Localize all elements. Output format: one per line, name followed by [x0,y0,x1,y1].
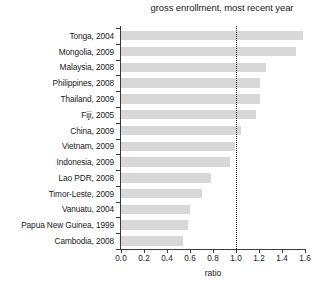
bar-row [121,170,305,186]
bar-row [121,75,305,91]
reference-line-1-0 [236,26,237,253]
bar-row [121,138,305,154]
y-axis-tick [116,170,120,171]
y-axis-tick [116,154,120,155]
category-label: China, 2009 [70,126,114,136]
category-label: Thailand, 2009 [61,94,115,104]
x-axis-tick-label: 1.2 [253,254,264,263]
bar [121,126,241,135]
bar [121,63,266,72]
category-label: Malaysia, 2008 [60,62,114,72]
bar-row [121,60,305,76]
x-axis-tick-label: 1.6 [299,254,310,263]
category-label: Fiji, 2005 [81,110,114,120]
y-axis-tick [116,28,120,29]
bar-row [121,28,305,44]
bar-rows [121,28,305,249]
y-axis-tick [116,186,120,187]
y-axis-tick [116,91,120,92]
category-label-row: Fiji, 2005 [0,107,114,123]
bar-row [121,202,305,218]
x-axis-tick-label: 0.0 [115,254,126,263]
x-axis-tick [305,249,306,253]
x-axis-tick-label: 0.8 [207,254,218,263]
category-label: Lao PDR, 2008 [59,173,114,183]
category-label: Papua New Guinea, 1999 [21,220,114,230]
bar-row [121,217,305,233]
bar [121,78,260,87]
category-axis-labels: Tonga, 2004Mongolia, 2009Malaysia, 2008P… [0,28,114,249]
category-label-row: Timor-Leste, 2009 [0,186,114,202]
y-axis-tick [116,60,120,61]
x-axis-tick [190,249,191,253]
bar-row [121,186,305,202]
category-label-row: Papua New Guinea, 1999 [0,217,114,233]
category-label-row: Lao PDR, 2008 [0,170,114,186]
bar-row [121,91,305,107]
bar [121,94,260,103]
category-label: Mongolia, 2009 [59,47,114,57]
bar [121,189,202,198]
category-label-row: Cambodia, 2008 [0,233,114,249]
x-axis-tick-label: 0.4 [161,254,172,263]
category-label-row: Philippines, 2008 [0,75,114,91]
y-axis-tick [116,107,120,108]
bar-row [121,44,305,60]
x-axis-tick-label: 1.0 [230,254,241,263]
category-label-row: Indonesia, 2009 [0,154,114,170]
y-axis-tick [116,44,120,45]
category-label-row: China, 2009 [0,123,114,139]
category-label: Philippines, 2008 [53,78,115,88]
x-axis-tick [121,249,122,253]
x-axis-tick [144,249,145,253]
bar-chart: gross enrollment, most recent year Tonga… [0,0,324,289]
bar [121,142,235,151]
y-axis-tick [116,217,120,218]
bar [121,31,303,40]
category-label-row: Vietnam, 2009 [0,138,114,154]
bar-row [121,154,305,170]
y-axis-tick [116,202,120,203]
category-label-row: Mongolia, 2009 [0,44,114,60]
category-label: Vietnam, 2009 [62,141,114,151]
x-axis-tick [236,249,237,253]
chart-title: gross enrollment, most recent year [120,2,324,13]
category-label-row: Vanuatu, 2004 [0,202,114,218]
category-label-row: Malaysia, 2008 [0,60,114,76]
bar-row [121,107,305,123]
y-axis-tick [116,123,120,124]
category-label: Timor-Leste, 2009 [49,189,114,199]
y-axis-tick [116,75,120,76]
category-label: Vanuatu, 2004 [62,204,114,214]
category-label: Indonesia, 2009 [56,157,114,167]
plot-area [121,28,305,249]
x-axis-tick [167,249,168,253]
bar [121,173,211,182]
x-axis-label: ratio [121,268,305,278]
bar [121,157,230,166]
category-label: Tonga, 2004 [69,31,114,41]
x-axis-tick [282,249,283,253]
y-axis-tick [116,139,120,140]
x-axis-tick [259,249,260,253]
y-axis-tick [116,249,120,250]
x-axis-tick-label: 0.2 [138,254,149,263]
bar [121,236,183,245]
bar [121,47,296,56]
y-axis-tick [116,233,120,234]
category-label-row: Tonga, 2004 [0,28,114,44]
bar-row [121,123,305,139]
x-axis-tick-label: 0.6 [184,254,195,263]
category-label-row: Thailand, 2009 [0,91,114,107]
bar-row [121,233,305,249]
x-axis-tick [213,249,214,253]
bar [121,205,190,214]
x-axis-tick-label: 1.4 [276,254,287,263]
bar [121,220,188,229]
category-label: Cambodia, 2008 [55,236,115,246]
